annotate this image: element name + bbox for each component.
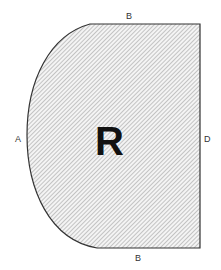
label-bottom-b: B xyxy=(135,253,141,263)
label-right-d: D xyxy=(204,134,211,144)
label-top-b: B xyxy=(126,11,132,21)
region-diagram: B A D B R xyxy=(0,0,221,270)
region-label-r: R xyxy=(95,119,124,163)
label-left-a: A xyxy=(15,134,21,144)
